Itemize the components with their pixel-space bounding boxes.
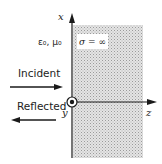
diagram-graphics	[0, 0, 162, 164]
conductor-label: σ = ∞	[77, 34, 108, 49]
incident-label: Incident	[18, 67, 60, 79]
x-axis-arrowhead-icon	[69, 13, 75, 23]
z-axis-arrowhead-icon	[147, 99, 157, 105]
origin-dot-icon	[70, 100, 74, 104]
diagram-canvas: σ = ∞ x ε₀, μ₀ Incident Reflected y z	[0, 0, 162, 164]
reflected-arrowhead-icon	[11, 117, 20, 123]
reflected-label: Reflected	[17, 100, 66, 112]
left-medium-label: ε₀, μ₀	[38, 37, 62, 47]
y-axis-label: y	[62, 107, 68, 118]
x-axis-label: x	[58, 11, 64, 22]
incident-arrowhead-icon	[54, 84, 63, 90]
z-axis-label: z	[146, 107, 151, 118]
